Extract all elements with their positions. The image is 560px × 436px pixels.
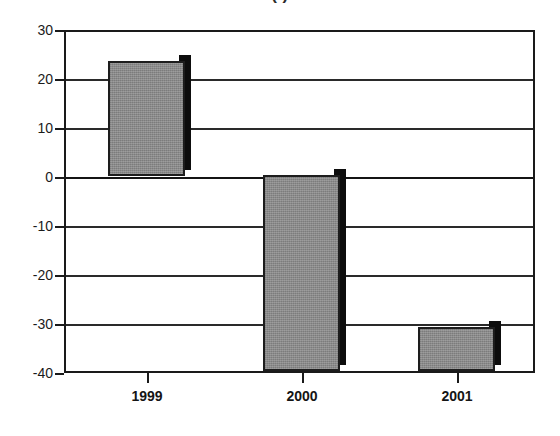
x-tick-2001 <box>457 373 459 383</box>
y-axis-label-10: 10 <box>3 120 53 136</box>
y-tick-neg10 <box>55 226 64 228</box>
y-axis-label-neg10: -10 <box>3 218 53 234</box>
y-axis-label-neg30: -30 <box>3 316 53 332</box>
y-axis-label-20: 20 <box>3 71 53 87</box>
gridline-neg10 <box>66 226 533 228</box>
gridline-20 <box>66 79 533 81</box>
y-tick-0 <box>55 177 64 179</box>
x-axis-label-1999: 1999 <box>131 388 162 404</box>
y-tick-neg20 <box>55 275 64 277</box>
x-axis-label-2000: 2000 <box>286 388 317 404</box>
x-axis-label-2001: 2001 <box>441 388 472 404</box>
y-tick-10 <box>55 128 64 130</box>
y-axis-label-neg20: -20 <box>3 267 53 283</box>
y-axis-labels: 30 20 10 0 -10 -20 -30 -40 <box>0 0 53 436</box>
y-tick-20 <box>55 79 64 81</box>
y-axis-label-30: 30 <box>3 22 53 38</box>
y-tick-neg40 <box>55 373 64 375</box>
chart-title: ( ) <box>0 0 560 5</box>
y-tick-neg30 <box>55 324 64 326</box>
x-tick-2000 <box>302 373 304 383</box>
chart-title-cropped: ( ) <box>0 0 560 14</box>
gridline-10 <box>66 128 533 130</box>
x-tick-1999 <box>147 373 149 383</box>
plot-frame <box>64 30 535 373</box>
gridline-zero <box>66 177 533 179</box>
y-axis-label-0: 0 <box>3 169 53 185</box>
gridline-neg20 <box>66 275 533 277</box>
y-axis-label-neg40: -40 <box>3 365 53 381</box>
bar-chart: ( ) 30 20 10 0 -10 -20 -30 -40 <box>0 0 560 436</box>
gridline-neg30 <box>66 324 533 326</box>
y-tick-30 <box>55 30 64 32</box>
